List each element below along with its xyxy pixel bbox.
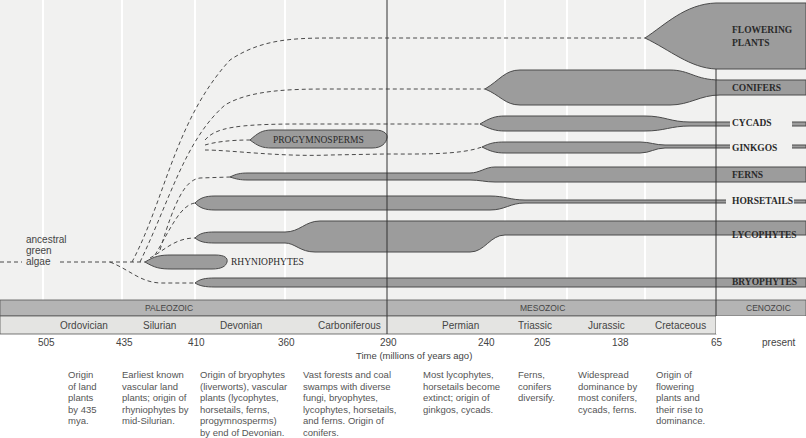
note-cretaceous: Origin of flowering plants and their ris… — [656, 369, 705, 427]
note-line: fungi, bryophytes, — [303, 392, 396, 404]
note-line: plants (lycophytes, — [200, 392, 287, 404]
root-label-3: algae — [26, 256, 51, 267]
note-line: swamps with diverse — [303, 381, 396, 393]
era-cenozoic: CENOZOIC — [746, 303, 791, 313]
note-silurian: Earliest known vascular land plants; ori… — [122, 369, 189, 427]
note-line: flowering — [656, 381, 705, 393]
note-line: conifers — [518, 381, 555, 393]
note-line: of land — [68, 381, 97, 393]
note-line: Origin of — [656, 369, 705, 381]
note-line: by 435 — [68, 404, 97, 416]
note-line: extinct; origin of — [423, 392, 500, 404]
tick-410: 410 — [188, 337, 205, 348]
note-line: plants; origin of — [122, 392, 189, 404]
note-ordovician: Origin of land plants by 435 mya. — [68, 369, 97, 427]
note-jurassic: Widespread dominance by most conifers, c… — [578, 369, 637, 415]
note-line: vascular land — [122, 381, 189, 393]
era-paleozoic: PALEOZOIC — [145, 303, 193, 313]
note-triassic: Ferns, conifers diversify. — [518, 369, 555, 404]
note-permian: Most lycophytes, horsetails become extin… — [423, 369, 500, 415]
period-bar: Ordovician Silurian Devonian Carbonifero… — [0, 316, 806, 334]
label-ginkgos: GINKGOS — [732, 143, 777, 153]
note-line: their rise to — [656, 404, 705, 416]
note-line: rhyniophytes by — [122, 404, 189, 416]
note-line: mid-Silurian. — [122, 415, 189, 427]
note-line: progymnosperms) — [200, 415, 287, 427]
note-line: cycads, ferns. — [578, 404, 637, 416]
note-line: Ferns, — [518, 369, 555, 381]
note-line: conifers. — [303, 427, 396, 438]
label-lycophytes: LYCOPHYTES — [732, 230, 797, 240]
band-rhyniophytes — [145, 255, 227, 269]
note-line: (liverworts), vascular — [200, 381, 287, 393]
period-permian: Permian — [442, 320, 479, 331]
tick-present: present — [762, 337, 796, 348]
label-cycads: CYCADS — [732, 118, 772, 128]
note-line: dominance by — [578, 381, 637, 393]
tick-360: 360 — [278, 337, 295, 348]
note-line: Widespread — [578, 369, 637, 381]
tick-435: 435 — [116, 337, 133, 348]
note-line: Origin of bryophytes — [200, 369, 287, 381]
period-devonian: Devonian — [220, 320, 262, 331]
period-jurassic: Jurassic — [588, 320, 625, 331]
note-line: lycophytes, horsetails, — [303, 404, 396, 416]
label-progymnosperms: PROGYMNOSPERMS — [273, 135, 364, 145]
tick-138: 138 — [612, 337, 629, 348]
label-flowering-2: PLANTS — [732, 38, 769, 48]
root-label-2: green — [26, 245, 52, 256]
band-bryophytes — [195, 278, 806, 287]
note-line: Most lycophytes, — [423, 369, 500, 381]
note-line: plants — [68, 392, 97, 404]
note-line: dominance. — [656, 415, 705, 427]
note-line: Vast forests and coal — [303, 369, 396, 381]
tick-205: 205 — [534, 337, 551, 348]
tick-505: 505 — [38, 337, 55, 348]
period-ordovician: Ordovician — [60, 320, 108, 331]
label-conifers: CONIFERS — [732, 83, 781, 93]
label-ferns: FERNS — [732, 170, 763, 180]
note-line: most conifers, — [578, 392, 637, 404]
label-flowering-1: FLOWERING — [732, 25, 793, 35]
era-mesozoic: MESOZOIC — [520, 303, 565, 313]
period-silurian: Silurian — [143, 320, 176, 331]
root-label-1: ancestral — [26, 234, 67, 245]
note-line: mya. — [68, 415, 97, 427]
tick-290: 290 — [380, 337, 397, 348]
note-line: plants and — [656, 392, 705, 404]
time-axis: 505 435 410 360 290 240 205 138 65 prese… — [38, 337, 796, 361]
note-line: ginkgos, cycads. — [423, 404, 500, 416]
period-cretaceous: Cretaceous — [655, 320, 706, 331]
note-line: by end of Devonian. — [200, 427, 287, 438]
tick-240: 240 — [478, 337, 495, 348]
tick-65: 65 — [711, 337, 723, 348]
period-triassic: Triassic — [518, 320, 552, 331]
note-line: horsetails become — [423, 381, 500, 393]
period-carboniferous: Carboniferous — [318, 320, 381, 331]
note-line: horsetails, ferns, — [200, 404, 287, 416]
note-line: and ferns. Origin of — [303, 415, 396, 427]
label-bryophytes: BRYOPHYTES — [732, 277, 797, 287]
note-carboniferous: Vast forests and coal swamps with divers… — [303, 369, 396, 438]
label-horsetails: HORSETAILS — [732, 196, 793, 206]
label-rhyniophytes: RHYNIOPHYTES — [231, 257, 304, 267]
note-line: diversify. — [518, 392, 555, 404]
note-line: Origin — [68, 369, 97, 381]
note-devonian: Origin of bryophytes (liverworts), vascu… — [200, 369, 287, 438]
axis-title: Time (millions of years ago) — [356, 350, 472, 361]
note-line: Earliest known — [122, 369, 189, 381]
